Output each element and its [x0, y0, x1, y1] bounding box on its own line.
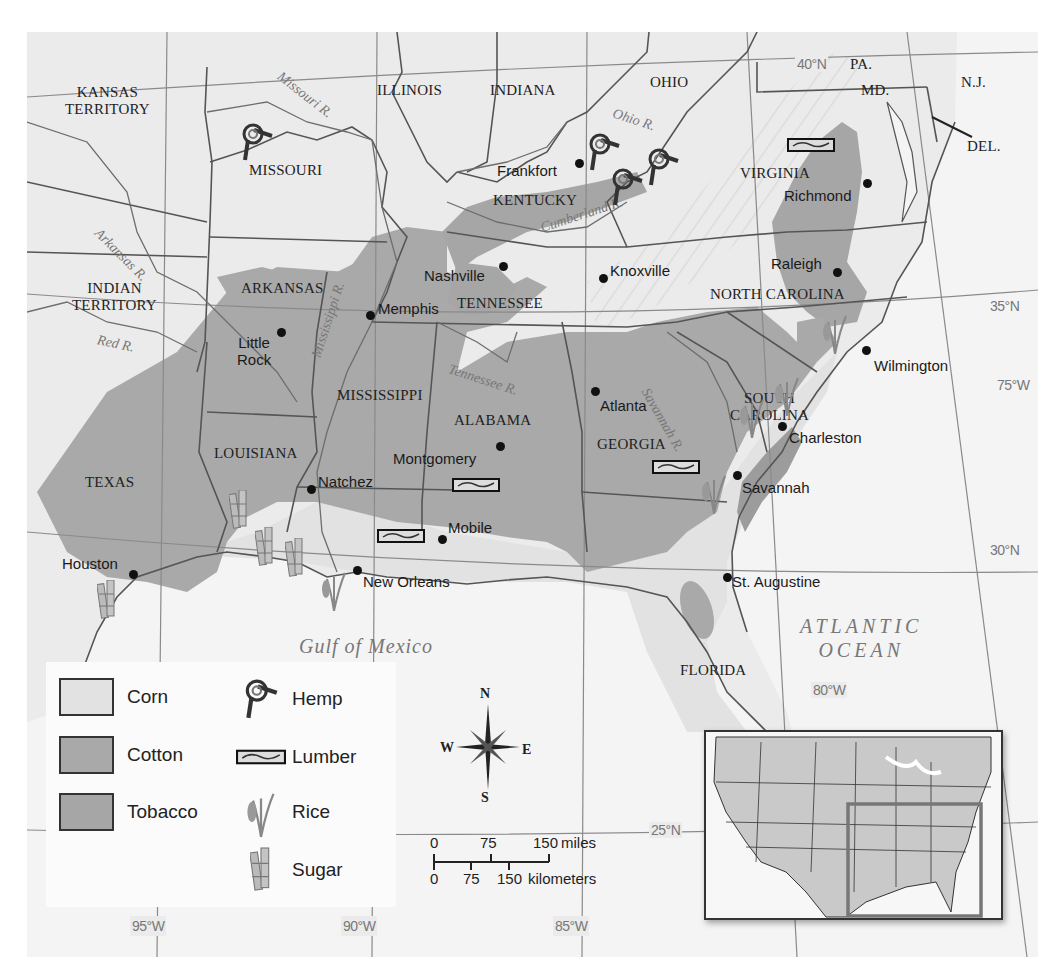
city-label-charleston: Charleston — [789, 429, 862, 446]
legend-item-tobacco: Tobacco — [59, 793, 198, 831]
state-label-texas: TEXAS — [85, 474, 134, 491]
lon-label-85w: 85°W — [553, 916, 589, 936]
lumber-plank-icon — [787, 138, 835, 152]
state-label-kentucky: KENTUCKY — [493, 192, 577, 209]
city-label-little-rock: LittleRock — [237, 334, 271, 368]
hemp-rope-knot-icon — [243, 678, 279, 720]
rice-stalk-icon — [772, 372, 802, 416]
lumber-plank-icon — [652, 460, 700, 474]
hemp-rope-knot-icon — [240, 122, 274, 162]
sugarcane-icon — [285, 538, 305, 578]
sugarcane-icon — [255, 527, 275, 567]
city-dot-raleigh — [833, 268, 842, 277]
rice-stalk-icon — [737, 394, 767, 438]
scale-miles-0: 0 — [430, 834, 438, 851]
state-label-pennsylvania: PA. — [850, 56, 872, 73]
state-label-louisiana: LOUISIANA — [214, 445, 297, 462]
city-label-natchez: Natchez — [318, 473, 373, 490]
state-label-north-carolina: NORTH CAROLINA — [710, 286, 845, 303]
state-label-florida: FLORIDA — [680, 662, 746, 679]
city-label-nashville: Nashville — [424, 267, 485, 284]
hemp-rope-knot-icon — [646, 147, 680, 187]
chesapeake-bay — [887, 102, 917, 222]
state-label-delaware: DEL. — [967, 138, 1001, 155]
corn-swatch — [59, 678, 114, 716]
cotton-swatch — [59, 736, 114, 774]
scale-bar: 0 75 150 miles 0 75 150 kilometers — [430, 834, 630, 894]
city-dot-mobile — [438, 535, 447, 544]
state-label-alabama: ALABAMA — [454, 412, 531, 429]
rice-stalk-icon — [319, 567, 349, 611]
state-label-illinois: ILLINOIS — [377, 82, 442, 99]
rice-stalk-icon — [820, 310, 850, 354]
legend-label-sugar: Sugar — [292, 859, 343, 881]
city-dot-frankfort — [575, 159, 584, 168]
city-dot-knoxville — [599, 274, 608, 283]
city-label-st-augustine: St. Augustine — [732, 573, 820, 590]
scale-bar-graphic — [433, 852, 553, 872]
scale-miles-unit: miles — [561, 834, 596, 851]
scale-km-unit: kilometers — [528, 870, 596, 887]
state-label-mississippi: MISSISSIPPI — [337, 387, 423, 404]
lat-label-30n: 30°N — [988, 542, 1021, 558]
city-label-houston: Houston — [62, 555, 118, 572]
scale-km-75: 75 — [463, 870, 480, 887]
legend-label-cotton: Cotton — [127, 744, 183, 766]
tobacco-swatch — [59, 793, 114, 831]
state-label-new-jersey: N.J. — [961, 74, 986, 91]
lumber-plank-icon — [236, 749, 286, 765]
rice-stalk-icon — [699, 470, 729, 514]
compass-south: S — [481, 790, 489, 806]
city-dot-montgomery — [496, 442, 505, 451]
lon-label-75w: 75°W — [995, 377, 1031, 393]
compass-east: E — [522, 742, 531, 758]
inset-locator-map — [704, 730, 1003, 920]
water-label-gulf-of-mexico: Gulf of Mexico — [299, 634, 433, 658]
city-label-wilmington: Wilmington — [874, 357, 948, 374]
compass-star-icon — [456, 704, 520, 790]
city-dot-st-augustine — [723, 573, 732, 582]
city-dot-houston — [129, 570, 138, 579]
legend-item-rice: Rice — [236, 789, 330, 834]
lon-label-80w: 80°W — [811, 682, 847, 698]
legend-item-hemp: Hemp — [236, 676, 343, 721]
legend-item-lumber: Lumber — [236, 734, 356, 779]
compass-rose: N W E S — [448, 686, 528, 806]
sugarcane-icon — [229, 490, 249, 530]
scale-miles-150: 150 — [533, 834, 558, 851]
lon-label-95w: 95°W — [130, 916, 166, 936]
legend: Corn Cotton Tobacco Hemp Lumber Rice Sug… — [46, 662, 396, 907]
city-dot-little-rock — [277, 328, 286, 337]
lat-label-25n: 25°N — [649, 822, 682, 838]
city-dot-nashville — [499, 262, 508, 271]
city-label-savannah: Savannah — [742, 479, 810, 496]
scale-miles-75: 75 — [480, 834, 497, 851]
lumber-plank-icon — [377, 529, 425, 543]
rice-stalk-icon — [244, 786, 278, 838]
sugarcane-icon — [250, 846, 272, 894]
water-label-atlantic-ocean: ATLANTICOCEAN — [800, 614, 922, 662]
city-label-atlanta: Atlanta — [600, 397, 647, 414]
city-label-knoxville: Knoxville — [610, 262, 670, 279]
state-label-tennessee: TENNESSEE — [457, 295, 543, 312]
inset-us-outline — [706, 732, 1001, 918]
lumber-plank-icon — [452, 478, 500, 492]
city-label-mobile: Mobile — [448, 519, 492, 536]
city-dot-richmond — [863, 179, 872, 188]
state-label-kansas-territory: KANSASTERRITORY — [65, 84, 150, 118]
state-label-georgia: GEORGIA — [597, 436, 666, 453]
legend-label-tobacco: Tobacco — [127, 801, 198, 823]
sugarcane-icon — [97, 580, 117, 620]
legend-label-hemp: Hemp — [292, 688, 343, 710]
scale-km-150: 150 — [497, 870, 522, 887]
state-label-arkansas: ARKANSAS — [241, 280, 323, 297]
city-label-new-orleans: New Orleans — [363, 573, 450, 590]
city-dot-wilmington — [862, 346, 871, 355]
lon-label-90w: 90°W — [341, 916, 377, 936]
lat-label-40n: 40°N — [795, 56, 828, 72]
legend-item-sugar: Sugar — [236, 847, 343, 892]
legend-label-corn: Corn — [127, 686, 168, 708]
city-dot-natchez — [307, 485, 316, 494]
compass-north: N — [480, 686, 490, 702]
state-label-indian-territory: INDIANTERRITORY — [72, 280, 157, 314]
